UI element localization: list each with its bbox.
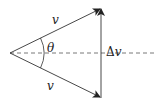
delta-v-label: Δv (106, 46, 121, 58)
bottom-velocity-vector (10, 53, 100, 97)
delta-var: v (115, 45, 122, 59)
diagram-graphics (0, 0, 154, 106)
top-vector-label: v (52, 14, 59, 26)
vector-diagram: v v θ Δv (0, 0, 154, 106)
angle-label: θ (47, 42, 54, 54)
bottom-vector-label: v (47, 80, 54, 92)
delta-symbol: Δ (106, 45, 115, 59)
